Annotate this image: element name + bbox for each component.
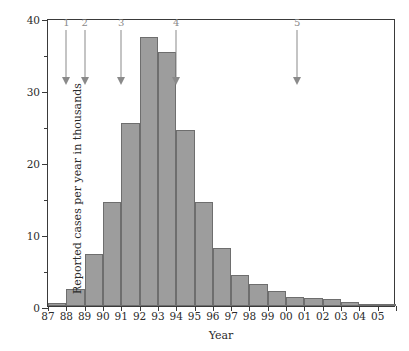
y-tick-label-10: 10 [27, 231, 40, 242]
x-tick-label-97: 97 [224, 311, 237, 322]
x-tick-label-93: 93 [151, 311, 164, 322]
y-minor-tick-15 [44, 200, 48, 201]
bar-05 [378, 304, 396, 306]
x-tick-label-99: 99 [261, 311, 274, 322]
x-tick-label-89: 89 [78, 311, 91, 322]
bar-95 [195, 202, 213, 306]
annotation-arrow-5: 5 [290, 30, 304, 85]
bar-97 [231, 275, 249, 306]
x-tick-label-94: 94 [170, 311, 183, 322]
annotation-shaft-3 [121, 30, 122, 77]
annotation-head-4 [172, 77, 180, 85]
x-tick-label-92: 92 [133, 311, 146, 322]
y-tick-label-40: 40 [27, 15, 40, 26]
x-tick-label-91: 91 [115, 311, 128, 322]
y-tick-40 [42, 20, 48, 21]
y-minor-tick-25 [44, 128, 48, 129]
annotation-label-4: 4 [173, 18, 179, 28]
bar-04 [359, 304, 377, 306]
bar-03 [341, 302, 359, 306]
x-tick-label-03: 03 [334, 311, 347, 322]
bar-00 [286, 297, 304, 306]
annotation-label-2: 2 [81, 18, 87, 28]
x-tick-label-01: 01 [298, 311, 311, 322]
x-tick-label-02: 02 [316, 311, 329, 322]
x-tick-label-87: 87 [41, 311, 54, 322]
annotation-head-3 [117, 77, 125, 85]
annotation-arrow-1: 1 [59, 30, 73, 85]
bar-98 [249, 284, 267, 306]
x-tick-label-04: 04 [353, 311, 366, 322]
bar-89 [85, 254, 103, 306]
x-tick-end [396, 306, 397, 311]
bar-94 [176, 130, 194, 306]
plot-area: 010203040 878889909192939495969798990001… [47, 19, 395, 307]
annotation-head-1 [62, 77, 70, 85]
x-axis-label: Year [47, 330, 395, 341]
bar-01 [304, 298, 322, 306]
bar-90 [103, 202, 121, 306]
annotation-shaft-5 [297, 30, 298, 77]
annotation-label-3: 3 [118, 18, 124, 28]
x-tick-label-95: 95 [188, 311, 201, 322]
chart-figure: 010203040 878889909192939495969798990001… [0, 0, 409, 351]
x-tick-label-98: 98 [243, 311, 256, 322]
y-axis-label: Reported cases per year in thousands [72, 79, 83, 299]
y-tick-label-0: 0 [33, 303, 40, 314]
bar-96 [213, 248, 231, 306]
bar-02 [323, 299, 341, 306]
annotation-label-1: 1 [63, 18, 69, 28]
annotation-shaft-4 [176, 30, 177, 77]
bar-91 [121, 123, 139, 306]
y-tick-20 [42, 164, 48, 165]
bar-99 [268, 291, 286, 306]
y-tick-label-20: 20 [27, 159, 40, 170]
y-tick-30 [42, 92, 48, 93]
annotation-head-5 [293, 77, 301, 85]
x-tick-label-88: 88 [60, 311, 73, 322]
x-tick-label-96: 96 [206, 311, 219, 322]
x-tick-label-90: 90 [96, 311, 109, 322]
x-tick-label-05: 05 [371, 311, 384, 322]
bar-87 [48, 303, 66, 306]
annotation-shaft-1 [66, 30, 67, 77]
bar-93 [158, 52, 176, 306]
y-tick-label-30: 30 [27, 87, 40, 98]
y-tick-10 [42, 236, 48, 237]
bar-92 [140, 37, 158, 306]
annotation-arrow-4: 4 [169, 30, 183, 85]
annotation-shaft-2 [84, 30, 85, 77]
annotation-label-5: 5 [294, 18, 300, 28]
annotation-arrow-2: 2 [78, 30, 92, 85]
annotation-arrow-3: 3 [114, 30, 128, 85]
x-tick-label-00: 00 [279, 311, 292, 322]
y-minor-tick-35 [44, 56, 48, 57]
y-minor-tick-5 [44, 272, 48, 273]
